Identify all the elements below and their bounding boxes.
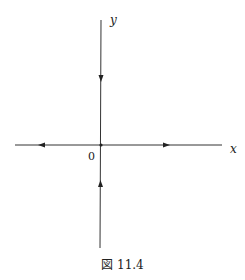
phase-diagram xyxy=(0,0,245,280)
origin-label: 0 xyxy=(88,150,95,163)
origin-point xyxy=(99,143,102,146)
x-axis-label: x xyxy=(230,142,237,156)
y-axis xyxy=(100,20,101,248)
y-axis-label: y xyxy=(110,13,117,27)
arrow-up-icon xyxy=(98,180,103,187)
arrow-down-icon xyxy=(99,75,104,82)
arrow-right-icon xyxy=(163,143,170,148)
arrow-left-icon xyxy=(38,143,45,148)
figure-caption: 図 11.4 xyxy=(0,255,245,272)
